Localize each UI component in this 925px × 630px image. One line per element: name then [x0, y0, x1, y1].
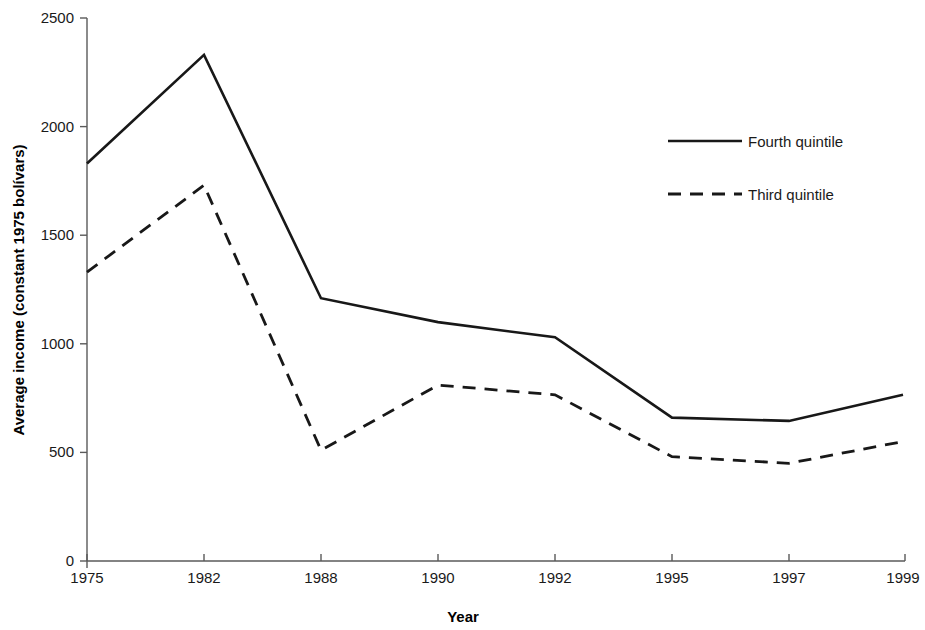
- x-tick-label: 1999: [886, 569, 919, 586]
- chart-legend: Fourth quintile Third quintile: [668, 133, 843, 203]
- y-tick-marks: [80, 18, 87, 561]
- legend-label: Third quintile: [748, 186, 834, 203]
- x-tick-label: 1990: [421, 569, 454, 586]
- x-tick-label: 1988: [304, 569, 337, 586]
- series-line-fourth-quintile: [87, 55, 903, 421]
- y-tick-label: 0: [66, 552, 74, 569]
- y-tick-labels: 2500 2000 1500 1000 500 0: [41, 9, 74, 569]
- y-tick-label: 2000: [41, 118, 74, 135]
- y-tick-label: 500: [49, 443, 74, 460]
- x-axis-title: Year: [447, 608, 479, 625]
- line-chart: 2500 2000 1500 1000 500 0 1975 1982 1988…: [0, 0, 925, 630]
- x-tick-label: 1982: [187, 569, 220, 586]
- x-tick-label: 1995: [655, 569, 688, 586]
- y-tick-label: 1500: [41, 226, 74, 243]
- legend-entry-third-quintile: Third quintile: [668, 186, 834, 203]
- y-tick-label: 1000: [41, 335, 74, 352]
- y-tick-label: 2500: [41, 9, 74, 26]
- x-tick-label: 1975: [70, 569, 103, 586]
- x-tick-label: 1992: [538, 569, 571, 586]
- x-tick-label: 1997: [772, 569, 805, 586]
- x-tick-labels: 1975 1982 1988 1990 1992 1995 1997 1999: [70, 569, 919, 586]
- legend-entry-fourth-quintile: Fourth quintile: [668, 133, 843, 150]
- y-axis-title: Average income (constant 1975 bolívars): [10, 144, 27, 435]
- chart-container: 2500 2000 1500 1000 500 0 1975 1982 1988…: [0, 0, 925, 630]
- legend-label: Fourth quintile: [748, 133, 843, 150]
